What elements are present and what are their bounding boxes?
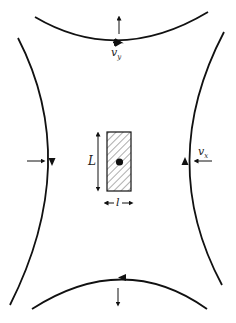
width-label: l — [116, 197, 120, 208]
velocity-label-vx: vx — [198, 146, 208, 160]
length-label: L — [88, 155, 96, 167]
streamline-top — [35, 12, 208, 46]
streamline-arrow-up-icon — [182, 157, 189, 165]
streamline-left — [10, 38, 56, 305]
streamline-bottom — [32, 274, 207, 309]
velocity-label-vy: vy — [111, 47, 121, 61]
particle-center-dot — [116, 158, 123, 165]
particle — [107, 132, 131, 191]
streamline-arrow-down-icon — [49, 158, 56, 166]
flow-diagram: vy vx L l — [0, 0, 236, 323]
